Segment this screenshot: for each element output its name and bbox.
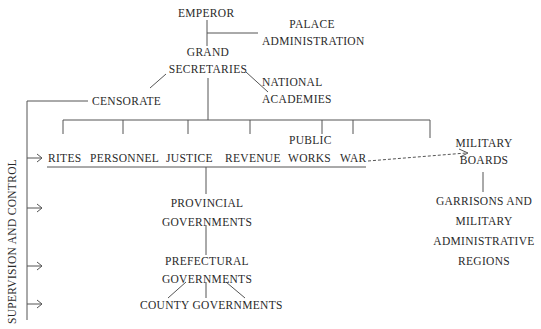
provincial-line-2: GOVERNMENTS bbox=[158, 213, 256, 232]
node-grand-secretaries: GRAND SECRETARIES bbox=[162, 44, 254, 78]
prefectural-line-2: GOVERNMENTS bbox=[158, 270, 256, 288]
grand-line-2: SECRETARIES bbox=[162, 61, 254, 78]
ministry-revenue: REVENUE bbox=[225, 150, 281, 167]
garrisons-line-3: ADMINISTRATIVE bbox=[432, 231, 536, 251]
grand-line-1: GRAND bbox=[162, 44, 254, 61]
node-provincial-governments: PROVINCIAL GOVERNMENTS bbox=[158, 194, 256, 232]
side-label-supervision: SUPERVISION AND CONTROL bbox=[6, 159, 18, 324]
ministry-works: WORKS bbox=[288, 150, 331, 167]
org-chart: EMPEROR PALACE ADMINISTRATION GRAND SECR… bbox=[0, 0, 541, 329]
academies-line-2: ACADEMIES bbox=[262, 91, 342, 108]
ministry-public: PUBLIC bbox=[289, 132, 332, 149]
garrisons-line-1: GARRISONS AND bbox=[432, 191, 536, 211]
node-palace-administration: PALACE ADMINISTRATION bbox=[262, 16, 362, 50]
node-emperor: EMPEROR bbox=[178, 5, 234, 22]
node-national-academies: NATIONAL ACADEMIES bbox=[262, 74, 342, 108]
node-county-governments: COUNTY GOVERNMENTS bbox=[140, 297, 283, 314]
ministry-war: WAR bbox=[340, 150, 366, 167]
military-line-1: MILITARY bbox=[440, 135, 528, 152]
provincial-line-1: PROVINCIAL bbox=[158, 194, 256, 213]
military-line-2: BOARDS bbox=[440, 152, 528, 169]
ministry-justice: JUSTICE bbox=[166, 150, 213, 167]
ministry-rites: RITES bbox=[48, 150, 81, 167]
node-garrisons: GARRISONS AND MILITARY ADMINISTRATIVE RE… bbox=[432, 191, 536, 271]
palace-line-2: ADMINISTRATION bbox=[262, 33, 362, 50]
node-prefectural-governments: PREFECTURAL GOVERNMENTS bbox=[158, 252, 256, 288]
node-military-boards: MILITARY BOARDS bbox=[440, 135, 528, 169]
ministry-personnel: PERSONNEL bbox=[90, 150, 159, 167]
palace-line-1: PALACE bbox=[262, 16, 362, 33]
garrisons-line-4: REGIONS bbox=[432, 251, 536, 271]
academies-line-1: NATIONAL bbox=[262, 74, 342, 91]
garrisons-line-2: MILITARY bbox=[432, 211, 536, 231]
node-censorate: CENSORATE bbox=[92, 93, 161, 110]
prefectural-line-1: PREFECTURAL bbox=[158, 252, 256, 270]
